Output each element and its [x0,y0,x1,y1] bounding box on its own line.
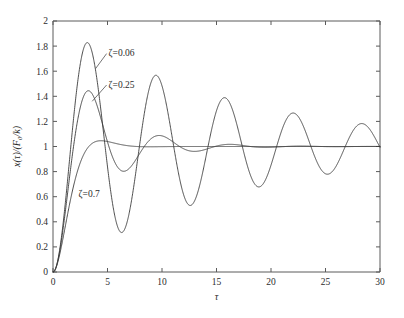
x-tick-label: 15 [212,277,222,287]
y-axis-tick-labels: 00.20.40.60.811.21.41.61.82 [36,16,48,277]
y-tick-label: 2 [43,16,48,26]
annotation-zeta-0-7: ζ=0.7 [79,189,100,200]
y-tick-label: 1.4 [36,92,48,102]
y-tick-label: 0.6 [36,192,48,202]
x-tick-label: 30 [375,277,385,287]
y-tick-label: 0.8 [36,167,48,177]
x-axis-title: τ [215,291,219,302]
x-tick-label: 5 [105,277,110,287]
y-tick-label: 1 [43,142,48,152]
y-tick-label: 0.4 [36,217,48,227]
x-tick-label: 20 [266,277,276,287]
y-tick-label: 1.6 [36,67,48,77]
x-tick-label: 10 [157,277,167,287]
annotation-zeta-0-25: ζ=0.25 [109,80,135,91]
annotation-zeta-0-06: ζ=0.06 [109,48,135,59]
x-tick-label: 0 [51,277,56,287]
x-axis-tick-labels: 051015202530 [51,277,385,287]
data-curves [53,43,380,272]
y-tick-label: 1.8 [36,42,48,52]
x-tick-label: 25 [321,277,331,287]
figure-container: 00.20.40.60.811.21.41.61.82 051015202530… [0,0,404,318]
y-tick-label: 0.2 [36,242,48,252]
y-tick-label: 0 [43,267,48,277]
y-tick-label: 1.2 [36,117,48,127]
leader-line-zeta-0-06 [96,54,107,69]
y-axis-title: x(τ)/(F₀/k) [11,125,23,168]
curve-zeta-0-7 [53,141,380,272]
step-response-chart: 00.20.40.60.811.21.41.61.82 051015202530… [0,0,404,318]
curve-zeta-0-06 [53,43,380,272]
